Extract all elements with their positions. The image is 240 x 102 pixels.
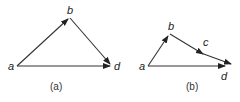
point-label-b: b: [168, 20, 174, 32]
vector-a-to-b: [17, 19, 68, 66]
diagram-a: a b d (a): [8, 4, 121, 92]
caption-b: (b): [186, 81, 198, 92]
caption-a: (a): [50, 81, 62, 92]
vector-c-to-d: [201, 53, 231, 64]
point-label-a: a: [8, 60, 14, 72]
diagram-b: a b c d (b): [139, 20, 231, 92]
vector-b-to-c: [170, 34, 203, 54]
vector-a-to-b: [148, 36, 168, 66]
point-label-b: b: [67, 4, 73, 16]
point-label-d: d: [114, 60, 121, 72]
vector-addition-figure: a b d (a) a b c d (b): [0, 0, 240, 102]
vector-b-to-d: [70, 18, 110, 64]
point-label-a: a: [139, 60, 145, 72]
point-label-c: c: [203, 36, 209, 48]
point-label-d: d: [221, 70, 228, 82]
